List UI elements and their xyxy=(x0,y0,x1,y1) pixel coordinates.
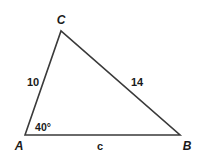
angle-label-a: 40° xyxy=(35,121,51,133)
triangle-canvas: C A B 10 14 c 40° xyxy=(0,0,205,156)
triangle-diagram: C A B 10 14 c 40° xyxy=(0,0,205,156)
vertex-label-c: C xyxy=(57,13,66,27)
vertex-label-b: B xyxy=(183,139,192,153)
side-label-ac: 10 xyxy=(27,76,39,88)
side-label-ab: c xyxy=(97,140,103,152)
triangle-abc xyxy=(25,31,180,135)
side-label-cb: 14 xyxy=(131,76,144,88)
vertex-label-a: A xyxy=(14,139,24,153)
